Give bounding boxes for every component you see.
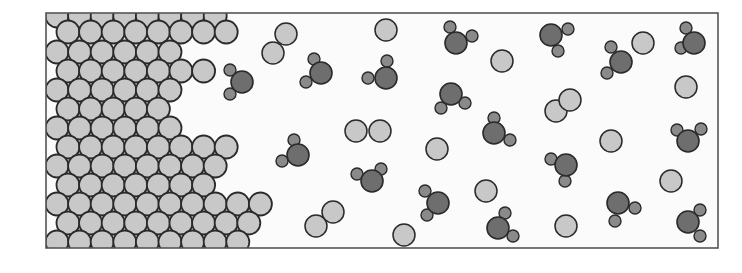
- pair-atom: [559, 89, 581, 111]
- small-atom: [381, 55, 393, 67]
- central-atom: [683, 32, 705, 54]
- lattice-atom: [91, 231, 114, 254]
- lattice-atom: [113, 231, 136, 254]
- free-atom: [555, 215, 577, 237]
- molecular-diagram: [0, 0, 742, 273]
- free-atom: [426, 138, 448, 160]
- central-atom: [483, 122, 505, 144]
- central-atom: [310, 62, 332, 84]
- pair-atom: [369, 120, 391, 142]
- small-atom: [559, 175, 571, 187]
- pair-atom: [345, 120, 367, 142]
- small-atom: [605, 41, 617, 53]
- central-atom: [610, 51, 632, 73]
- pair-atom: [262, 42, 284, 64]
- lattice-atom: [136, 231, 159, 254]
- lattice-atom: [159, 231, 182, 254]
- lattice-atom: [215, 21, 238, 44]
- free-atom: [491, 50, 513, 72]
- central-atom: [540, 24, 562, 46]
- central-atom: [677, 211, 699, 233]
- central-atom: [445, 32, 467, 54]
- lattice-atom: [204, 231, 227, 254]
- free-atom: [475, 180, 497, 202]
- central-atom: [677, 130, 699, 152]
- small-atom: [629, 202, 641, 214]
- central-atom: [440, 83, 462, 105]
- central-atom: [555, 154, 577, 176]
- small-atom: [601, 67, 613, 79]
- pair-atom: [322, 201, 344, 223]
- pair-atom: [275, 23, 297, 45]
- central-atom: [361, 170, 383, 192]
- lattice-atom: [192, 21, 215, 44]
- small-atom: [562, 23, 574, 35]
- small-atom: [362, 72, 374, 84]
- small-atom: [694, 230, 706, 242]
- lattice-atom: [46, 231, 69, 254]
- central-atom: [287, 144, 309, 166]
- free-atom: [632, 32, 654, 54]
- central-atom: [607, 192, 629, 214]
- lattice-atom: [192, 60, 215, 83]
- free-atom: [600, 130, 622, 152]
- free-atom: [675, 76, 697, 98]
- small-atom: [444, 21, 456, 33]
- central-atom: [231, 71, 253, 93]
- free-atom: [660, 170, 682, 192]
- lattice-atom: [226, 231, 249, 254]
- central-atom: [487, 217, 509, 239]
- small-atom: [504, 134, 516, 146]
- small-atom: [276, 155, 288, 167]
- central-atom: [427, 192, 449, 214]
- central-atom: [375, 67, 397, 89]
- free-atom: [393, 224, 415, 246]
- small-atom: [609, 215, 621, 227]
- small-atom: [552, 45, 564, 57]
- small-atom: [466, 30, 478, 42]
- free-atom: [375, 19, 397, 41]
- lattice-atom: [181, 231, 204, 254]
- small-atom: [300, 76, 312, 88]
- lattice-atom: [68, 231, 91, 254]
